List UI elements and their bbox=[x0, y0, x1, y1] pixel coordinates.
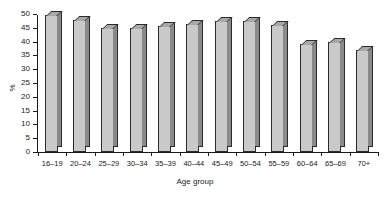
bar bbox=[271, 25, 284, 152]
x-tick-label: 40–44 bbox=[183, 159, 204, 168]
y-tick bbox=[33, 69, 37, 70]
bar-side-face bbox=[255, 18, 260, 147]
bar-side-face bbox=[113, 25, 118, 147]
bar-side-face bbox=[283, 22, 288, 147]
x-tick bbox=[123, 152, 124, 156]
x-tick-label: 70+ bbox=[357, 159, 370, 168]
x-tick-label: 50–54 bbox=[240, 159, 261, 168]
y-tick-label: 35 bbox=[0, 51, 30, 59]
x-tick-label: 60–64 bbox=[297, 159, 318, 168]
y-tick bbox=[33, 152, 37, 153]
bar-side-face bbox=[340, 39, 345, 147]
x-tick bbox=[151, 152, 152, 156]
x-tick bbox=[265, 152, 266, 156]
bar bbox=[73, 20, 86, 152]
x-tick bbox=[66, 152, 67, 156]
y-tick-label: 20 bbox=[0, 93, 30, 101]
x-axis-title: Age group bbox=[0, 177, 390, 187]
bar-chart: % 05101520253035404550 16–1920–2425–2930… bbox=[0, 0, 390, 197]
bar-side-face bbox=[85, 17, 90, 147]
y-tick-label: 45 bbox=[0, 24, 30, 32]
y-tick bbox=[33, 97, 37, 98]
x-tick bbox=[208, 152, 209, 156]
x-tick bbox=[350, 152, 351, 156]
y-tick-label: 50 bbox=[0, 10, 30, 18]
x-tick bbox=[180, 152, 181, 156]
y-tick bbox=[33, 42, 37, 43]
x-tick bbox=[293, 152, 294, 156]
x-tick-label: 55–59 bbox=[268, 159, 289, 168]
x-tick bbox=[38, 152, 39, 156]
bar bbox=[328, 42, 341, 152]
bar-side-face bbox=[198, 21, 203, 147]
x-tick bbox=[321, 152, 322, 156]
bar bbox=[215, 21, 228, 152]
y-tick-label: 25 bbox=[0, 79, 30, 87]
y-tick bbox=[33, 28, 37, 29]
y-tick-label: 5 bbox=[0, 134, 30, 142]
y-tick bbox=[33, 83, 37, 84]
y-tick bbox=[33, 14, 37, 15]
x-tick-label: 30–34 bbox=[127, 159, 148, 168]
bar-side-face bbox=[57, 12, 62, 147]
y-tick bbox=[33, 111, 37, 112]
x-tick-label: 35–39 bbox=[155, 159, 176, 168]
bar bbox=[158, 26, 171, 152]
bar bbox=[356, 50, 369, 152]
bar bbox=[130, 28, 143, 152]
y-tick-label: 0 bbox=[0, 148, 30, 156]
bar-side-face bbox=[368, 47, 373, 147]
bar-side-face bbox=[170, 23, 175, 147]
bar bbox=[186, 24, 199, 152]
x-tick bbox=[236, 152, 237, 156]
y-tick bbox=[33, 55, 37, 56]
x-tick bbox=[378, 152, 379, 156]
y-tick-label: 10 bbox=[0, 120, 30, 128]
bar-side-face bbox=[227, 18, 232, 147]
bar-side-face bbox=[142, 25, 147, 147]
bar bbox=[101, 28, 114, 152]
bar bbox=[45, 15, 58, 152]
y-tick bbox=[33, 138, 37, 139]
x-tick-label: 65–69 bbox=[325, 159, 346, 168]
y-tick-label: 15 bbox=[0, 107, 30, 115]
x-tick bbox=[95, 152, 96, 156]
x-tick-label: 20–24 bbox=[70, 159, 91, 168]
x-tick-label: 16–19 bbox=[42, 159, 63, 168]
x-tick-label: 25–29 bbox=[98, 159, 119, 168]
bar bbox=[243, 21, 256, 152]
y-tick bbox=[33, 124, 37, 125]
x-tick-label: 45–49 bbox=[212, 159, 233, 168]
bar bbox=[300, 44, 313, 152]
bar-side-face bbox=[312, 41, 317, 147]
y-tick-label: 40 bbox=[0, 38, 30, 46]
y-tick-label: 30 bbox=[0, 65, 30, 73]
plot-area bbox=[38, 14, 378, 152]
